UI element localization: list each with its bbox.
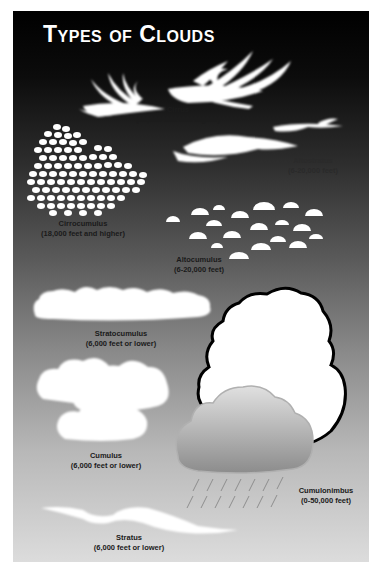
stratocumulus-label: Stratocumulus (6,000 feet or lower) (71, 329, 171, 348)
cloud-illustrations (13, 11, 369, 562)
altostratus-label: Altostratus (6-20,000 feet) (273, 156, 353, 175)
cirrocumulus-cloud-icon (27, 124, 147, 216)
stratus-label: Stratus (6,000 feet or lower) (79, 533, 179, 552)
cumulonimbus-label: Cumulonimbus (0-50,000 feet) (291, 486, 361, 505)
poster-title: Types of Clouds (43, 21, 215, 48)
stratocumulus-cloud-icon (34, 287, 211, 321)
cirrocumulus-label: Cirrocumulus (18,000 feet and higher) (33, 219, 133, 238)
rain-streaks-icon (187, 477, 283, 508)
cumulus-cloud-icon (37, 358, 169, 441)
altocumulus-cloud-icon (166, 202, 323, 259)
cirrus-label: Cirrus (18,000 feet and higher) (118, 105, 238, 124)
altocumulus-label: Altocumulus (6-20,000 feet) (159, 255, 239, 274)
clouds-poster: Types of Clouds Cirrus (18,000 feet and … (13, 11, 369, 562)
cumulonimbus-cloud-icon (176, 288, 345, 508)
stratus-cloud-icon (41, 507, 238, 534)
cumulus-label: Cumulus (6,000 feet or lower) (56, 451, 156, 470)
